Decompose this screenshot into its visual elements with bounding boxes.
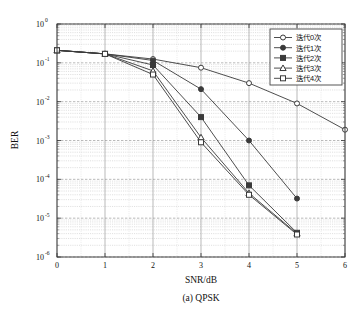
- figure-qpsk-ber-chart: 0123456 10010-110-210-310-410-510-6 SNR/…: [0, 0, 364, 313]
- data-point-marker: [281, 35, 286, 40]
- data-point-marker: [281, 45, 286, 50]
- svg-text:10: 10: [36, 59, 44, 68]
- data-point-marker: [151, 72, 156, 77]
- data-point-marker: [247, 183, 252, 188]
- svg-text:10: 10: [36, 137, 44, 146]
- svg-text:-2: -2: [45, 95, 50, 101]
- data-point-marker: [151, 62, 156, 67]
- legend: 迭代0次迭代1次迭代2次迭代3次迭代4次: [270, 29, 342, 85]
- x-tick-label: 1: [103, 261, 107, 270]
- svg-text:10: 10: [36, 20, 44, 29]
- data-point-marker: [247, 192, 252, 197]
- svg-text:-4: -4: [45, 173, 50, 179]
- x-tick-label: 6: [343, 261, 347, 270]
- data-point-marker: [295, 101, 300, 106]
- data-point-marker: [281, 76, 286, 81]
- data-point-marker: [247, 81, 252, 86]
- legend-label: 迭代3次: [296, 64, 322, 73]
- x-tick-label: 3: [199, 261, 203, 270]
- data-point-marker: [281, 55, 286, 60]
- data-point-marker: [295, 196, 300, 201]
- svg-text:10: 10: [36, 98, 44, 107]
- svg-text:-5: -5: [45, 212, 50, 218]
- svg-text:10: 10: [36, 253, 44, 262]
- svg-text:-3: -3: [45, 134, 50, 140]
- x-tick-label: 0: [55, 261, 59, 270]
- svg-text:10: 10: [36, 175, 44, 184]
- data-point-marker: [247, 138, 252, 143]
- x-axis-label: SNR/dB: [185, 275, 217, 285]
- svg-text:10: 10: [36, 214, 44, 223]
- legend-label: 迭代1次: [296, 44, 322, 53]
- data-point-marker: [295, 232, 300, 237]
- legend-label: 迭代0次: [296, 33, 322, 42]
- data-point-marker: [199, 87, 204, 92]
- ber-vs-snr-plot: 0123456 10010-110-210-310-410-510-6 SNR/…: [0, 0, 364, 313]
- x-tick-label: 4: [247, 261, 251, 270]
- data-point-marker: [199, 115, 204, 120]
- figure-caption: (a) QPSK: [182, 293, 219, 304]
- legend-label: 迭代2次: [296, 54, 322, 63]
- legend-label: 迭代4次: [296, 74, 322, 83]
- svg-text:-1: -1: [45, 56, 50, 62]
- y-axis-label: BER: [10, 130, 20, 149]
- data-point-marker: [199, 140, 204, 145]
- x-tick-label: 5: [295, 261, 299, 270]
- data-point-marker: [103, 51, 108, 56]
- x-tick-label: 2: [151, 261, 155, 270]
- svg-text:0: 0: [45, 17, 48, 23]
- data-point-marker: [199, 65, 204, 70]
- svg-text:-6: -6: [45, 250, 50, 256]
